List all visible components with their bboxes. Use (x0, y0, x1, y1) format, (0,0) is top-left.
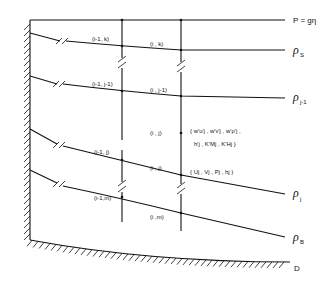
floor-hatch-mark (255, 262, 260, 268)
wall-hatch-mark (24, 126, 30, 132)
floor-hatch-mark (69, 247, 74, 253)
node-label-i-j: (i , j) (150, 165, 162, 171)
turbulent-flux-set-line1: { w'u'j , w'v'j , w'ρ'j , (190, 128, 241, 134)
grid-column-i-1 (118, 20, 126, 222)
wall-hatch-mark (24, 102, 30, 108)
state-variable-set: { Uj , Vj , Pj , hj } (190, 169, 233, 175)
wall-hatch-mark (24, 138, 30, 144)
wall-hatch-mark (24, 96, 30, 102)
wall-hatch-mark (24, 60, 30, 66)
wall-hatch-mark (24, 30, 30, 36)
wall-hatch-mark (24, 168, 30, 174)
wall-hatch-mark (24, 66, 30, 72)
floor-hatch-mark (93, 250, 98, 256)
floor-hatch-mark (129, 255, 134, 261)
floor-hatch-mark (225, 261, 230, 267)
floor-hatch-mark (165, 258, 170, 264)
svg-text:ρ: ρ (292, 90, 299, 104)
floor-hatch-mark (213, 260, 218, 266)
wall-hatch-mark (24, 24, 30, 30)
floor-hatch-mark (279, 262, 284, 268)
floor-hatch-mark (135, 255, 140, 261)
floor-hatch-mark (243, 261, 248, 267)
wall-hatch-mark (24, 72, 30, 78)
wall-hatch-mark (24, 144, 30, 150)
svg-text:ρ: ρ (292, 186, 299, 200)
wall-hatch-mark (24, 216, 30, 222)
floor-hatch-mark (45, 243, 50, 249)
floor-hatch-mark (207, 260, 212, 266)
floor-hatch-mark (153, 257, 158, 263)
floor-hatch-mark (105, 252, 110, 258)
floor-hatch-mark (87, 250, 92, 256)
node-label-i-j-1: (i , j-1) (150, 87, 167, 93)
floor-hatch-mark (27, 240, 32, 246)
layer-model-diagram: (i-1, k) (i , k) (i-1, j-1) (i , j-1) (i… (0, 0, 327, 287)
depth-label-d: D (294, 264, 300, 273)
wall-hatch-mark (24, 228, 30, 234)
floor-hatch-mark (63, 246, 68, 252)
wall-hatch-mark (24, 54, 30, 60)
floor-hatch-mark (33, 241, 38, 247)
wall-hatch-mark (24, 90, 30, 96)
svg-text:ρ: ρ (292, 230, 299, 244)
floor-hatch-mark (231, 261, 236, 267)
wall-hatch-mark (24, 192, 30, 198)
node-label-i-1-m: (i-1,m) (94, 195, 111, 201)
wall-hatch-mark (24, 156, 30, 162)
wall-hatch-mark (24, 234, 30, 240)
sea-floor (27, 240, 290, 268)
floor-hatch-mark (189, 259, 194, 265)
floor-hatch-mark (159, 257, 164, 263)
floor-hatch-mark (177, 259, 182, 265)
wall-hatch-mark (24, 114, 30, 120)
floor-hatch-mark (141, 256, 146, 262)
floor-hatch-mark (123, 254, 128, 260)
floor-hatch-mark (183, 259, 188, 265)
floor-hatch-mark (99, 251, 104, 257)
floor-hatch-mark (267, 262, 272, 268)
wall-hatch-mark (24, 42, 30, 48)
wall-hatch-mark (24, 162, 30, 168)
wall-hatch-mark (24, 120, 30, 126)
density-label-j: ρ j (292, 186, 301, 202)
left-wall (24, 20, 30, 240)
floor-hatch-mark (201, 260, 206, 266)
floor-hatch-mark (81, 249, 86, 255)
surface-pressure-label: P = gη (293, 16, 316, 25)
wall-hatch-mark (24, 48, 30, 54)
wall-hatch-mark (24, 78, 30, 84)
wall-hatch-mark (24, 210, 30, 216)
node-label-i-1-j: (i-1, j) (94, 149, 109, 155)
floor-hatch-mark (147, 256, 152, 262)
wall-hatch-mark (24, 108, 30, 114)
floor-hatch-mark (75, 248, 80, 254)
floor-hatch-mark (219, 261, 224, 267)
wall-hatch-mark (24, 186, 30, 192)
grid-column-i (177, 20, 185, 231)
node-label-i-1-k: (i-1, k) (92, 36, 109, 42)
wall-hatch-mark (24, 222, 30, 228)
floor-hatch-mark (111, 253, 116, 259)
floor-hatch-mark (273, 262, 278, 268)
floor-hatch-mark (249, 262, 254, 268)
node-label-i-j-mid: (i , j) (150, 130, 162, 136)
svg-text:ρ: ρ (292, 43, 299, 57)
svg-text:S: S (300, 52, 304, 58)
node-label-i-k: (i , k) (150, 41, 163, 47)
floor-hatch-mark (39, 242, 44, 248)
wall-hatch-mark (24, 84, 30, 90)
interface-rho-j (30, 129, 285, 194)
svg-text:j: j (299, 196, 301, 202)
floor-hatch-mark (171, 258, 176, 264)
node-label-i-1-j-1: (i-1, j-1) (92, 81, 113, 87)
wall-hatch-mark (24, 150, 30, 156)
wall-hatch-mark (24, 174, 30, 180)
wall-hatch-mark (24, 36, 30, 42)
floor-hatch-mark (261, 262, 266, 268)
floor-hatch-mark (195, 260, 200, 266)
svg-text:B: B (300, 239, 304, 245)
node-label-i-m: (i ,m) (150, 214, 164, 220)
floor-hatch-mark (51, 244, 56, 250)
interface-rho-b (30, 170, 285, 237)
